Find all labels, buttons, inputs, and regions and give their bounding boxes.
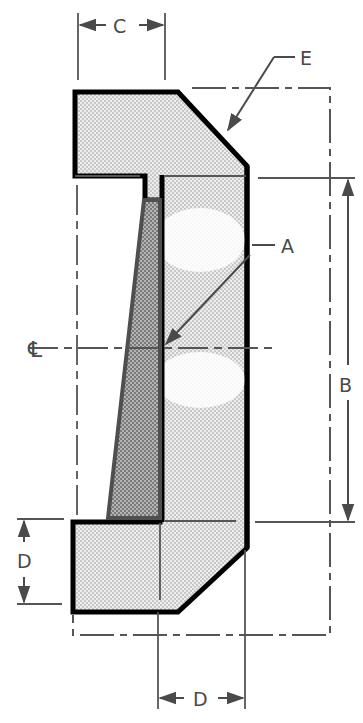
label-d-bottom: D — [193, 688, 208, 710]
label-b: B — [339, 374, 352, 396]
highlight-lower — [155, 352, 245, 408]
label-e: E — [300, 47, 312, 69]
cross-section-drawing: C E B ℄ A D D — [0, 0, 363, 723]
label-a: A — [281, 235, 294, 257]
diagram-canvas: C E B ℄ A D D — [0, 0, 363, 723]
tapered-wedge — [108, 200, 160, 518]
callout-e-arrow — [228, 57, 274, 130]
label-d-left: D — [17, 550, 32, 572]
centerline-symbol: ℄ — [27, 337, 43, 362]
label-c: C — [113, 15, 126, 37]
highlight-upper — [155, 208, 245, 272]
